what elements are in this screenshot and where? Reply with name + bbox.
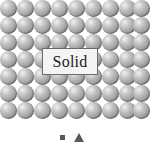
particle	[102, 34, 119, 51]
particle	[34, 0, 51, 17]
particle	[85, 0, 102, 17]
particle	[133, 85, 150, 102]
particle	[0, 85, 17, 102]
phase-label-text: Solid	[53, 54, 88, 70]
solid-state-particle-diagram: Solid	[0, 0, 150, 142]
particle	[133, 68, 150, 85]
particle	[102, 85, 119, 102]
lattice-row	[0, 102, 150, 120]
particle	[102, 17, 119, 34]
particle	[51, 0, 68, 17]
particle	[17, 85, 34, 102]
square-marker-icon	[60, 135, 65, 140]
particle	[85, 17, 102, 34]
particle	[0, 68, 17, 85]
particle	[51, 102, 68, 119]
lattice-row	[0, 0, 150, 18]
triangle-marker-icon	[74, 133, 84, 142]
particle	[68, 102, 85, 119]
particle	[102, 51, 119, 68]
particle	[133, 0, 150, 17]
particle	[68, 17, 85, 34]
particle	[34, 17, 51, 34]
particle	[0, 17, 17, 34]
particle	[133, 102, 150, 119]
particle	[17, 0, 34, 17]
particle	[85, 85, 102, 102]
particle	[17, 68, 34, 85]
particle	[68, 85, 85, 102]
particle	[34, 85, 51, 102]
particle	[133, 34, 150, 51]
particle	[17, 17, 34, 34]
particle	[51, 17, 68, 34]
particle	[85, 102, 102, 119]
bottom-marks-group	[0, 133, 150, 142]
particle	[0, 102, 17, 119]
particle	[133, 51, 150, 68]
particle	[17, 102, 34, 119]
particle	[17, 51, 34, 68]
particle	[17, 34, 34, 51]
phase-label-box: Solid	[42, 48, 98, 75]
lattice-row	[0, 85, 150, 103]
particle	[0, 51, 17, 68]
particle	[34, 102, 51, 119]
lattice-row	[0, 17, 150, 35]
particle	[102, 102, 119, 119]
particle	[102, 68, 119, 85]
particle	[133, 17, 150, 34]
particle	[68, 0, 85, 17]
particle	[0, 34, 17, 51]
particle	[51, 85, 68, 102]
particle	[102, 0, 119, 17]
particle	[0, 0, 17, 17]
